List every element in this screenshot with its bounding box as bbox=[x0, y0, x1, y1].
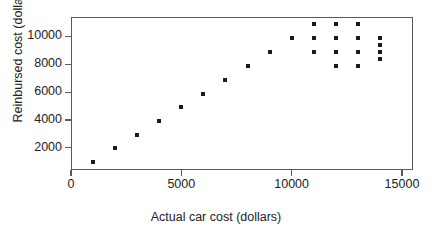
data-point bbox=[135, 133, 139, 137]
x-tick-mark bbox=[181, 170, 182, 176]
data-point bbox=[157, 119, 161, 123]
y-tick-mark bbox=[65, 147, 71, 148]
x-axis-title: Actual car cost (dollars) bbox=[0, 210, 432, 224]
plot-area bbox=[71, 17, 413, 170]
data-point bbox=[334, 64, 338, 68]
data-point bbox=[334, 22, 338, 26]
scatter-plot-figure: 200040006000800010000 050001000015000 Re… bbox=[0, 0, 432, 238]
data-point bbox=[356, 36, 360, 40]
y-tick-mark bbox=[65, 64, 71, 65]
data-point bbox=[356, 22, 360, 26]
data-point bbox=[179, 105, 183, 109]
y-tick-label: 4000 bbox=[34, 113, 62, 126]
data-point bbox=[378, 57, 382, 61]
x-tick-label: 5000 bbox=[167, 178, 195, 191]
data-point bbox=[268, 50, 272, 54]
y-tick-mark bbox=[65, 92, 71, 93]
y-tick-mark bbox=[65, 36, 71, 37]
data-point bbox=[378, 43, 382, 47]
data-point bbox=[312, 22, 316, 26]
data-point bbox=[246, 64, 250, 68]
data-point bbox=[290, 36, 294, 40]
x-tick-mark bbox=[70, 170, 71, 176]
y-tick-label: 2000 bbox=[34, 141, 62, 154]
y-tick-label: 8000 bbox=[34, 57, 62, 70]
data-point bbox=[356, 50, 360, 54]
x-tick-label: 10000 bbox=[274, 178, 309, 191]
data-point bbox=[91, 160, 95, 164]
data-point bbox=[378, 50, 382, 54]
x-tick-mark bbox=[401, 170, 402, 176]
x-tick-label: 15000 bbox=[385, 178, 420, 191]
y-axis-title: Reinbursed cost (dollars) bbox=[11, 0, 25, 133]
data-point bbox=[334, 36, 338, 40]
data-point bbox=[113, 146, 117, 150]
data-point bbox=[378, 36, 382, 40]
y-tick-mark bbox=[65, 119, 71, 120]
data-point bbox=[356, 64, 360, 68]
x-tick-mark bbox=[291, 170, 292, 176]
data-point bbox=[334, 50, 338, 54]
y-tick-label: 6000 bbox=[34, 85, 62, 98]
data-point bbox=[312, 36, 316, 40]
x-tick-label: 0 bbox=[68, 178, 75, 191]
data-point bbox=[201, 92, 205, 96]
data-point bbox=[223, 78, 227, 82]
y-tick-label: 10000 bbox=[27, 29, 62, 42]
data-point bbox=[312, 50, 316, 54]
